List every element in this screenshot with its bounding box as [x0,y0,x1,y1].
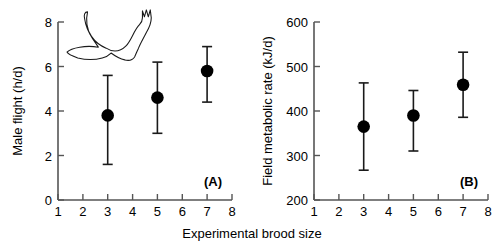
panel-a-datapoint-5 [151,62,164,133]
panel-a-xtick-5: 5 [154,204,161,219]
panel-a-y-ticks [58,22,64,200]
panel-a-xtick-6: 6 [179,204,186,219]
panel-a-series [101,47,213,165]
panel-b-datapoint-3 [357,83,370,170]
panel-a-x-ticks [58,194,232,200]
panel-b-x-ticks [314,194,488,200]
panel-a-ytick-2: 2 [45,149,52,164]
panel-b-datapoint-5 [407,91,420,152]
panel-b: 200 300 400 500 600 1 2 3 4 5 6 7 8 [252,0,504,248]
panel-a-ytick-8: 8 [45,15,52,30]
panel-a-ytick-0: 0 [45,193,52,208]
panel-a-xtick-2: 2 [79,204,86,219]
panel-b-xtick-5: 5 [410,204,417,219]
panel-b-ytick-500: 500 [286,60,308,75]
panel-a-y-axis-title: Male flight (h/d) [10,66,25,156]
panel-a-datapoint-3 [101,75,114,164]
panel-b-datapoint-7 [457,52,470,117]
panel-a-xtick-1: 1 [54,204,61,219]
panel-a-datapoint-7 [201,47,214,103]
panel-b-ytick-600: 600 [286,15,308,30]
panel-b-ytick-200: 200 [286,193,308,208]
shared-x-axis-title-text: Experimental brood size [182,226,321,241]
panel-b-xtick-8: 8 [484,204,491,219]
panel-b-xtick-7: 7 [459,204,466,219]
flying-bird-silhouette-icon [67,10,151,60]
panel-a-xtick-7: 7 [203,204,210,219]
panel-b-plot: 200 300 400 500 600 1 2 3 4 5 6 7 8 [252,0,504,224]
panel-a-xtick-8: 8 [228,204,235,219]
panel-b-tag: (B) [460,174,478,189]
panel-b-xtick-6: 6 [435,204,442,219]
panel-a-plot: 0 2 4 6 8 1 2 3 4 5 6 7 8 [0,0,252,224]
panel-a-xtick-3: 3 [104,204,111,219]
panel-b-ytick-300: 300 [286,149,308,164]
panel-a-tag: (A) [204,174,222,189]
panel-b-xtick-1: 1 [310,204,317,219]
panel-b-ytick-400: 400 [286,104,308,119]
panel-a: 0 2 4 6 8 1 2 3 4 5 6 7 8 [0,0,252,248]
figure-root: 0 2 4 6 8 1 2 3 4 5 6 7 8 [0,0,504,248]
panel-a-xtick-4: 4 [129,204,136,219]
panel-b-series [357,52,469,170]
panel-b-y-ticks [314,22,320,200]
panel-b-y-axis-title: Field metabolic rate (kJ/d) [260,36,275,186]
panel-a-ytick-4: 4 [45,104,52,119]
panel-b-xtick-2: 2 [335,204,342,219]
shared-x-axis-title: Experimental brood size [0,224,504,242]
panel-a-ytick-6: 6 [45,60,52,75]
panel-b-xtick-4: 4 [385,204,392,219]
panel-b-xtick-3: 3 [360,204,367,219]
